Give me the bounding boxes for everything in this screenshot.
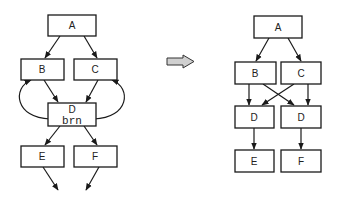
diagram-canvas: A B C D brn E F: [0, 0, 339, 202]
edge-a-b: [256, 38, 269, 61]
edge-a-b: [45, 36, 60, 58]
node-label: C: [91, 64, 98, 75]
edge-b-d: [44, 80, 58, 102]
branch-label: brn: [62, 115, 82, 127]
node-a: A: [48, 15, 96, 36]
node-b: B: [21, 59, 64, 80]
node-e: E: [21, 146, 64, 167]
node-label: E: [39, 151, 46, 162]
node-label: C: [297, 68, 304, 79]
node-e: E: [235, 150, 274, 172]
node-a: A: [254, 16, 302, 38]
node-label: A: [275, 22, 282, 33]
edge-a-c: [84, 36, 97, 58]
right-arrow-icon: [167, 55, 194, 68]
after-graph: A B C D D E F: [235, 16, 321, 172]
edge-d-c-loop: [94, 80, 124, 119]
node-c: C: [74, 59, 117, 80]
edge-d-b-loop: [19, 80, 50, 119]
node-d1: D: [235, 106, 274, 128]
node-label: D: [250, 112, 257, 123]
node-d2: D: [281, 106, 321, 128]
node-label: F: [92, 151, 98, 162]
node-label: D: [297, 112, 304, 123]
edge-a-c: [288, 38, 301, 61]
node-f: F: [281, 150, 321, 172]
edge-d-f: [84, 126, 97, 145]
edge-e-out: [43, 167, 58, 190]
node-c: C: [281, 62, 321, 84]
node-f: F: [74, 146, 117, 167]
edge-d-e: [45, 126, 60, 145]
node-label: B: [39, 64, 46, 75]
node-b: B: [235, 62, 276, 84]
node-label: D: [68, 104, 75, 115]
before-graph: A B C D brn E F: [19, 15, 124, 190]
node-label: F: [298, 156, 304, 167]
node-label: A: [69, 20, 76, 31]
node-d: D brn: [48, 103, 96, 127]
node-label: B: [252, 68, 259, 79]
edge-c-d: [86, 80, 98, 102]
node-label: E: [251, 156, 258, 167]
edge-f-out: [86, 167, 99, 190]
